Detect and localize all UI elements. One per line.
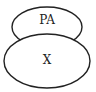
diagram-canvas: PA X [0, 0, 96, 92]
label-x: X [43, 53, 52, 67]
label-pa: PA [39, 13, 55, 27]
node-x: X [4, 34, 90, 88]
